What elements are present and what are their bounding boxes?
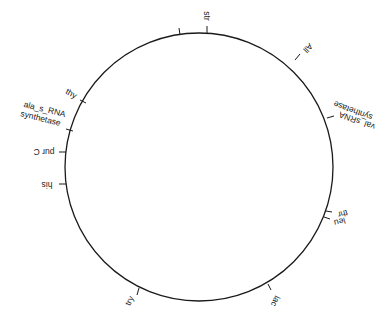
marker-leu: leu bbox=[324, 216, 347, 229]
marker-str: str bbox=[202, 11, 212, 33]
marker-label-leu: leu bbox=[333, 216, 347, 229]
marker-label-his: his bbox=[42, 180, 53, 190]
marker-label-lac: lac bbox=[269, 294, 283, 309]
marker-label-pur-c: pur C bbox=[34, 147, 55, 157]
marker-label-try: try bbox=[123, 294, 136, 307]
marker-label-all: All bbox=[301, 41, 315, 55]
marker-label-str: str bbox=[202, 11, 212, 21]
marker-try: try bbox=[123, 288, 139, 307]
chromosome-ring bbox=[65, 33, 333, 301]
marker-pur-c: pur C bbox=[34, 147, 66, 157]
genetic-map-diagram: str All val_sRNA synthetase thr leu lac … bbox=[0, 0, 388, 324]
marker-lac: lac bbox=[268, 284, 283, 309]
marker-his: his bbox=[42, 180, 66, 190]
marker-label-thy: thy bbox=[64, 86, 79, 101]
marker-all: All bbox=[295, 41, 315, 60]
marker-ala-srna-synthetase: ala_s_RNA synthetase bbox=[20, 99, 73, 131]
marker-val-srna-synthetase: val_sRNA synthetase bbox=[327, 99, 376, 132]
